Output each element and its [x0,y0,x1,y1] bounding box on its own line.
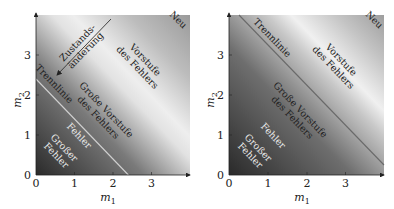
right-xtick-3: 3 [342,177,349,190]
left-xtick-0: 0 [33,177,40,190]
right-ytick-1: 1 [217,129,224,142]
right-ytick-3: 3 [217,49,224,62]
figure: 0 1 2 3 0 1 2 3 m1 m2 Neu Zustands- ände… [0,0,394,209]
right-x-label: m1 [294,191,310,206]
left-xtick-3: 3 [148,177,155,190]
left-xtick-1: 1 [71,177,78,190]
left-xtick-2: 2 [110,177,117,190]
right-xtick-2: 2 [304,177,311,190]
left-ytick-0: 0 [24,169,31,182]
left-y-label: m2 [11,92,26,108]
right-xtick-1: 1 [265,177,272,190]
right-y-label: m2 [204,92,219,108]
right-xtick-0: 0 [226,177,233,190]
right-ytick-0: 0 [217,169,224,182]
left-chart: 0 1 2 3 0 1 2 3 m1 m2 Neu Zustands- ände… [11,9,190,206]
left-x-label: m1 [100,191,116,206]
left-ytick-3: 3 [24,49,31,62]
right-chart: 0 1 2 3 0 1 2 3 m1 m2 Neu Trennlinie Vor… [204,9,385,206]
left-ytick-1: 1 [24,129,31,142]
